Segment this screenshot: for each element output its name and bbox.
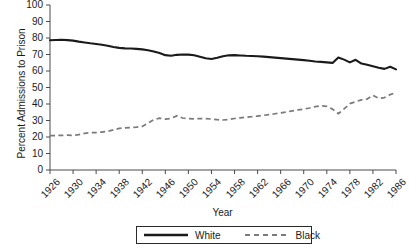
x-axis-title-text: Year (212, 207, 232, 218)
x-tick-label: 1958 (218, 177, 246, 205)
x-tick-label: 1942 (126, 177, 154, 205)
legend-label-black: Black (296, 230, 320, 241)
x-tick-label: 1954 (195, 177, 223, 205)
x-tick-label: 1970 (288, 177, 316, 205)
x-tick-label: 1934 (80, 177, 108, 205)
x-tick-label: 1938 (103, 177, 131, 205)
x-axis-title: Year (0, 207, 409, 218)
x-tick-label: 1962 (241, 177, 269, 205)
legend-swatch-dashed-icon (245, 230, 289, 240)
x-tick-label: 1930 (57, 177, 85, 205)
x-tick-label: 1950 (172, 177, 200, 205)
x-tick-label: 1982 (357, 177, 385, 205)
x-tick-label: 1974 (311, 177, 339, 205)
legend-swatch-solid-icon (144, 230, 188, 240)
legend-item-black[interactable]: Black (245, 227, 320, 243)
legend-label-white: White (195, 230, 221, 241)
x-tick-label: 1978 (334, 177, 362, 205)
x-tick-label: 1966 (264, 177, 292, 205)
x-tick-label: 1926 (34, 177, 62, 205)
legend-item-white[interactable]: White (144, 227, 221, 243)
chart-figure: Percent Admissions to Prison 10090807060… (0, 0, 409, 251)
x-tick-label: 1946 (149, 177, 177, 205)
x-tick-label: 1986 (380, 177, 408, 205)
chart-legend: White Black (136, 226, 312, 244)
